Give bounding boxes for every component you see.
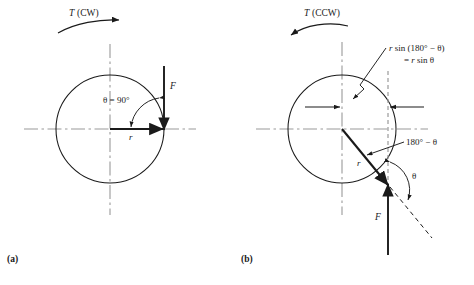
panel-a-caption: (a) — [7, 254, 18, 265]
panel-b-moment-arm-label-line1: r sin (180° − θ) — [389, 43, 445, 53]
torque-figure: T (CW) r F θ = 90° (a) T (CCW) r sin — [0, 0, 474, 285]
panel-b-supplement-label: 180° − θ — [406, 137, 437, 147]
panel-b-torque-label-dir: (CCW) — [312, 8, 340, 19]
panel-b-force-label: F — [374, 212, 381, 222]
panel-a-torque-label-T: T — [69, 8, 75, 18]
panel-b-moment-arm-label-line2: = r sin θ — [404, 55, 434, 65]
panel-a-torque-label-dir: (CW) — [77, 8, 99, 19]
panel-b-angle-label: θ — [412, 171, 416, 181]
panel-a-angle-label: θ = 90° — [103, 95, 130, 105]
panel-b-radius-label: r — [357, 158, 361, 168]
panel-b-caption: (b) — [241, 254, 253, 265]
panel-a-force-label: F — [169, 81, 176, 91]
panel-a-radius-label: r — [129, 132, 133, 142]
panel-b-torque-label-T: T — [304, 8, 310, 18]
